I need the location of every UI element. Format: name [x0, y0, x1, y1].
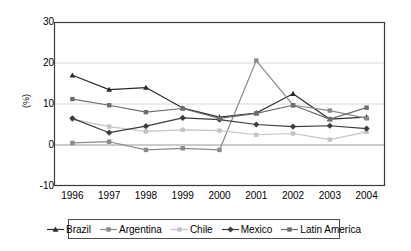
legend-label: Argentina — [119, 224, 162, 235]
marker-square — [181, 128, 185, 132]
data-point-marker — [217, 148, 221, 152]
data-point-marker — [328, 108, 332, 112]
data-point-marker — [144, 110, 148, 114]
marker-square — [177, 227, 181, 231]
plot-area — [0, 0, 411, 251]
data-point-marker — [290, 123, 296, 129]
data-point-marker — [107, 124, 111, 128]
data-point-marker — [70, 141, 74, 145]
series-line — [72, 75, 366, 119]
marker-diamond — [290, 123, 296, 129]
legend-label: Brazil — [66, 224, 91, 235]
data-point-marker — [70, 97, 74, 101]
data-point-marker — [180, 115, 186, 121]
data-point-marker — [69, 72, 75, 77]
marker-square — [106, 227, 110, 231]
marker-diamond — [106, 130, 112, 136]
marker-diamond — [327, 123, 333, 129]
data-point-marker — [177, 227, 181, 231]
data-point-marker — [217, 128, 221, 132]
data-point-marker — [107, 103, 111, 107]
marker-square — [217, 128, 221, 132]
data-point-marker — [288, 227, 292, 231]
marker-square — [144, 110, 148, 114]
data-point-marker — [291, 103, 295, 107]
marker-square — [217, 148, 221, 152]
data-point-marker — [227, 226, 233, 232]
marker-square — [328, 117, 332, 121]
data-point-marker — [328, 117, 332, 121]
data-point-marker — [290, 91, 296, 96]
marker-square — [217, 116, 221, 120]
marker-square — [107, 140, 111, 144]
data-point-marker — [254, 133, 258, 137]
data-point-marker — [106, 130, 112, 136]
chart-legend: BrazilArgentinaChileMexicoLatin America — [68, 219, 340, 239]
marker-square — [144, 129, 148, 133]
data-point-marker — [254, 58, 258, 62]
data-point-marker — [143, 123, 149, 129]
marker-square — [364, 105, 368, 109]
series-line — [72, 61, 366, 150]
legend-label: Mexico — [241, 224, 273, 235]
marker-square — [254, 133, 258, 137]
data-point-marker — [181, 128, 185, 132]
legend-swatch-icon — [171, 224, 188, 235]
legend-item-latin-america[interactable]: Latin America — [281, 224, 361, 235]
data-point-marker — [181, 146, 185, 150]
data-point-marker — [181, 106, 185, 110]
marker-diamond — [253, 121, 259, 127]
legend-swatch-icon — [100, 224, 117, 235]
series-brazil — [69, 72, 369, 121]
data-point-marker — [291, 131, 295, 135]
marker-diamond — [180, 115, 186, 121]
data-point-marker — [364, 116, 368, 120]
marker-square — [364, 116, 368, 120]
legend-swatch-icon — [47, 224, 64, 235]
data-point-marker — [107, 140, 111, 144]
marker-square — [291, 131, 295, 135]
data-point-marker — [253, 121, 259, 127]
marker-square — [254, 111, 258, 115]
marker-square — [70, 97, 74, 101]
legend-item-chile[interactable]: Chile — [171, 224, 213, 235]
legend-swatch-icon — [281, 224, 298, 235]
marker-square — [107, 103, 111, 107]
marker-triangle — [69, 72, 75, 77]
marker-square — [288, 227, 292, 231]
data-point-marker — [106, 227, 110, 231]
marker-square — [144, 148, 148, 152]
data-point-marker — [364, 105, 368, 109]
marker-diamond — [143, 123, 149, 129]
legend-item-argentina[interactable]: Argentina — [100, 224, 162, 235]
data-point-marker — [328, 137, 332, 141]
marker-square — [70, 141, 74, 145]
marker-square — [107, 124, 111, 128]
marker-diamond — [227, 226, 233, 232]
legend-item-brazil[interactable]: Brazil — [47, 224, 91, 235]
marker-square — [328, 137, 332, 141]
marker-square — [181, 146, 185, 150]
data-point-marker — [254, 111, 258, 115]
line-chart: (%) 3020100-10 1996199719981999200020012… — [0, 0, 411, 251]
marker-square — [291, 103, 295, 107]
marker-square — [328, 108, 332, 112]
legend-item-mexico[interactable]: Mexico — [222, 224, 273, 235]
legend-swatch-icon — [222, 224, 239, 235]
legend-label: Chile — [190, 224, 213, 235]
marker-square — [181, 106, 185, 110]
data-point-marker — [217, 116, 221, 120]
series-argentina — [70, 58, 369, 152]
marker-triangle — [290, 91, 296, 96]
data-point-marker — [144, 148, 148, 152]
data-point-marker — [327, 123, 333, 129]
data-point-marker — [144, 129, 148, 133]
marker-square — [254, 58, 258, 62]
legend-label: Latin America — [300, 224, 361, 235]
